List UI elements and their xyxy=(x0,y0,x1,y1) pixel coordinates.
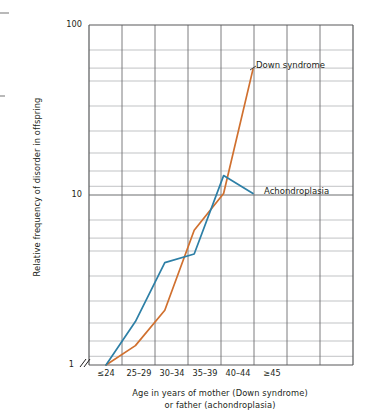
x-axis-title: Age in years of mother (Down syndrome) o… xyxy=(84,388,356,411)
series-label-down-syndrome: Down syndrome xyxy=(256,60,325,70)
series-label-achondroplasia: Achondroplasia xyxy=(264,186,329,196)
scan-artifact-top xyxy=(0,12,9,14)
y-tick-label-10: 10 xyxy=(48,189,82,199)
scan-artifact-middle xyxy=(0,95,5,97)
y-axis-title: Relative frequency of disorder in offspr… xyxy=(32,77,42,297)
x-axis-title-line-1: Age in years of mother (Down syndrome) xyxy=(132,388,307,398)
x-axis-title-line-2: or father (achondroplasia) xyxy=(164,400,275,410)
x-tick-label-6: ≥45 xyxy=(252,368,292,378)
series-line-down-syndrome xyxy=(106,69,253,365)
chart-figure: 100 10 1 ≤24 25–29 30–34 35–39 40–44 ≥45… xyxy=(0,0,377,417)
y-tick-label-100: 100 xyxy=(48,19,82,29)
y-tick-label-1: 1 xyxy=(48,359,74,369)
